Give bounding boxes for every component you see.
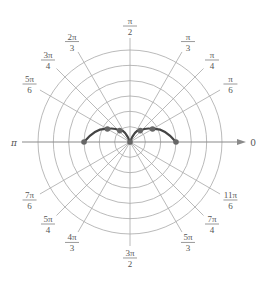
angle-label-fraction: π3: [181, 32, 195, 53]
svg-text:5π: 5π: [25, 74, 35, 84]
svg-text:2: 2: [128, 27, 133, 37]
svg-text:π: π: [186, 32, 191, 42]
curve-point: [137, 128, 143, 134]
svg-text:4: 4: [46, 61, 51, 71]
angle-label-fraction: 5π6: [23, 74, 37, 95]
polar-plot: 0π6π4π3π22π33π45π6π7π65π44π33π25π37π411π…: [0, 0, 264, 284]
svg-text:2: 2: [128, 259, 133, 269]
arrow-icon: [237, 139, 246, 145]
angle-label-fraction: π6: [223, 74, 237, 95]
angle-label-fraction: 3π2: [123, 248, 137, 269]
svg-text:6: 6: [27, 85, 32, 95]
svg-text:2π: 2π: [67, 32, 77, 42]
curve-point: [105, 126, 111, 132]
svg-text:6: 6: [228, 201, 233, 211]
svg-text:3: 3: [186, 43, 191, 53]
grid-ray: [130, 142, 204, 216]
svg-text:4: 4: [210, 61, 215, 71]
svg-text:6: 6: [27, 201, 32, 211]
svg-text:5π: 5π: [183, 232, 193, 242]
curve-point: [150, 126, 156, 132]
angle-label-fraction: 7π6: [23, 190, 37, 211]
curve-point: [173, 139, 179, 145]
svg-text:4: 4: [46, 225, 51, 235]
angle-label-fraction: 2π3: [65, 32, 79, 53]
angle-label-fraction: 7π4: [205, 214, 219, 235]
angle-label: 0: [250, 138, 256, 148]
angle-label-fraction: π2: [123, 16, 137, 37]
svg-text:7π: 7π: [207, 214, 217, 224]
angle-label-fraction: 5π3: [181, 232, 195, 253]
svg-text:3π: 3π: [43, 50, 53, 60]
angle-label-fraction: 11π6: [223, 190, 237, 211]
angle-label-fraction: 3π4: [41, 50, 55, 71]
svg-text:11π: 11π: [224, 190, 238, 200]
angle-label-fraction: 5π4: [41, 214, 55, 235]
svg-text:6: 6: [228, 85, 233, 95]
grid-ray: [56, 142, 130, 216]
svg-text:3π: 3π: [125, 248, 135, 258]
svg-text:4: 4: [210, 225, 215, 235]
svg-text:5π: 5π: [43, 214, 53, 224]
svg-text:3: 3: [70, 43, 75, 53]
svg-text:3: 3: [70, 243, 75, 253]
angle-label-fraction: 4π3: [65, 232, 79, 253]
svg-text:π: π: [228, 74, 233, 84]
angle-label-fraction: π4: [205, 50, 219, 71]
angle-label: π: [10, 138, 18, 148]
svg-text:3: 3: [186, 243, 191, 253]
svg-text:π: π: [210, 50, 215, 60]
curve-point: [127, 139, 133, 145]
curve-point: [117, 128, 123, 134]
svg-text:4π: 4π: [67, 232, 77, 242]
curve-point: [81, 139, 87, 145]
svg-text:π: π: [128, 16, 133, 26]
svg-text:7π: 7π: [25, 190, 35, 200]
